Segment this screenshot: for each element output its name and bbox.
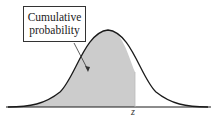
- callout-line-2: probability: [24, 24, 85, 37]
- callout-line-1: Cumulative: [24, 11, 85, 24]
- z-axis-label: z: [131, 106, 135, 117]
- cumulative-probability-callout: Cumulative probability: [23, 6, 86, 42]
